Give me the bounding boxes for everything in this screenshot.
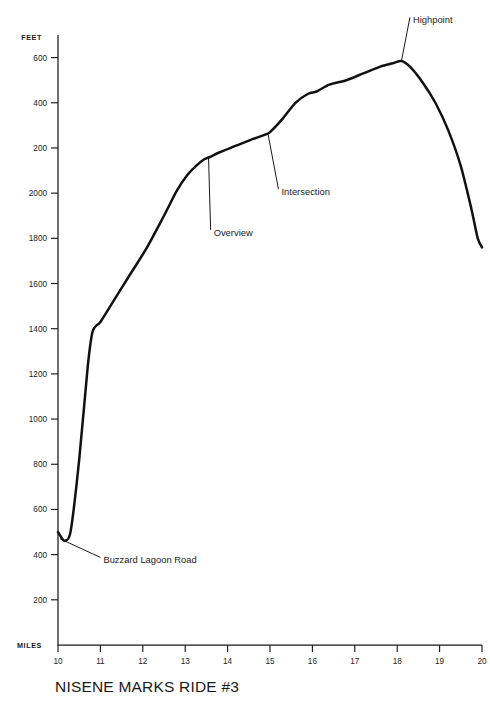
annotation-leader [209, 157, 211, 230]
elevation-series [58, 61, 482, 541]
y-tick-label: 600 [33, 505, 47, 514]
x-tick-label: 10 [53, 657, 63, 666]
elevation-line [58, 61, 482, 541]
x-tick-label: 19 [435, 657, 445, 666]
y-axis-ticks: 2004006008001000120014001600180020002004… [29, 54, 58, 605]
x-axis-label: MILES [17, 641, 42, 650]
y-tick-label: 2000 [29, 189, 48, 198]
x-tick-label: 12 [138, 657, 148, 666]
x-tick-label: 17 [350, 657, 360, 666]
x-tick-label: 11 [96, 657, 105, 666]
x-tick-label: 14 [223, 657, 233, 666]
annotation: Overview [209, 157, 253, 238]
y-tick-label: 600 [33, 54, 47, 63]
x-tick-label: 13 [181, 657, 191, 666]
annotation-leader [60, 539, 100, 558]
x-axis-ticks: 1011121314151617181920 [53, 645, 487, 666]
y-tick-label: 400 [33, 99, 47, 108]
annotation-leader [401, 17, 409, 61]
annotation-leader [268, 133, 279, 189]
y-tick-label: 1000 [29, 415, 48, 424]
y-tick-label: 200 [33, 144, 47, 153]
y-tick-label: 1200 [29, 370, 48, 379]
elevation-chart-figure: 2004006008001000120014001600180020002004… [0, 0, 490, 715]
annotation: Buzzard Lagoon Road [60, 539, 197, 566]
annotation-label: Buzzard Lagoon Road [103, 554, 196, 565]
x-tick-label: 16 [308, 657, 318, 666]
annotation-label: Overview [214, 227, 253, 238]
y-tick-label: 1600 [29, 280, 48, 289]
elevation-chart-svg: 2004006008001000120014001600180020002004… [0, 0, 490, 715]
y-tick-label: 200 [33, 596, 47, 605]
x-tick-label: 15 [265, 657, 275, 666]
annotation-label: Highpoint [413, 14, 453, 25]
x-tick-label: 18 [393, 657, 403, 666]
y-tick-label: 800 [33, 460, 47, 469]
y-tick-label: 1400 [29, 325, 48, 334]
y-tick-label: 400 [33, 551, 47, 560]
y-tick-label: 1800 [29, 234, 48, 243]
annotation: Highpoint [401, 14, 452, 61]
annotation-label: Intersection [281, 186, 329, 197]
annotation: Intersection [268, 133, 330, 197]
chart-title: NISENE MARKS RIDE #3 [55, 678, 239, 695]
x-tick-label: 20 [477, 657, 487, 666]
y-axis-label: FEET [21, 33, 42, 42]
